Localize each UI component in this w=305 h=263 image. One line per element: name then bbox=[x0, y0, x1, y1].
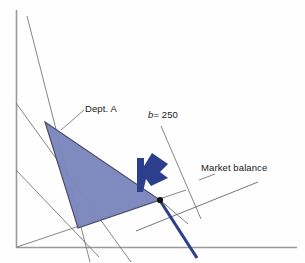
market-balance-line bbox=[136, 182, 258, 231]
equilibrium-point-dot bbox=[157, 197, 163, 203]
label-market-balance: Market balance bbox=[201, 163, 267, 173]
label-dept-a: Dept. A bbox=[85, 104, 117, 114]
label-b-250: b= 250 bbox=[148, 110, 178, 120]
diagram-canvas bbox=[0, 0, 305, 263]
b-250-constraint-line bbox=[159, 199, 197, 258]
b-250-leader-line bbox=[161, 126, 201, 219]
axes-group bbox=[16, 10, 297, 248]
dept-a-leader-line bbox=[61, 110, 84, 130]
constraint-lines-group bbox=[16, 16, 186, 262]
linear-programming-diagram: Dept. A b= 250 Market balance bbox=[0, 0, 305, 263]
shift-direction-arrow bbox=[137, 153, 168, 192]
label-b-value: = 250 bbox=[153, 109, 178, 120]
market-balance-leader-line bbox=[199, 174, 215, 180]
